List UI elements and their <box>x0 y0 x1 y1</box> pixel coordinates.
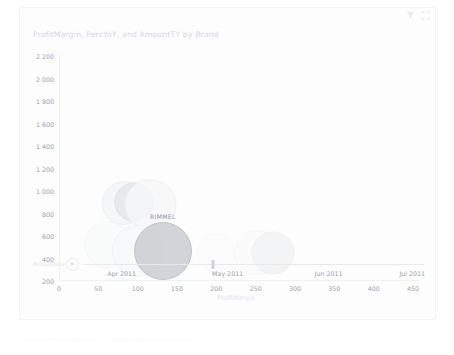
filter-icon[interactable] <box>406 11 415 20</box>
play-axis[interactable]: ActualDate Apr 2011May 2011Jun 2011Jul 2… <box>33 259 426 289</box>
play-axis-slider-track[interactable] <box>84 264 424 265</box>
card-header <box>406 11 430 20</box>
play-button[interactable] <box>66 258 79 271</box>
footer-caption: Source: sample sales model — bubble char… <box>21 336 421 342</box>
y-axis-tick: 600 <box>42 233 54 240</box>
scatter-plot[interactable]: RIMMEL 2004006008001 0001 2001 4001 6001… <box>59 56 413 281</box>
page-title: ProfitMargin, PercYoY, and AmountTY by B… <box>33 30 219 39</box>
footer-divider <box>19 330 436 331</box>
y-axis-tick: 1 600 <box>36 120 54 127</box>
play-axis-field-label: ActualDate <box>33 261 65 267</box>
play-axis-slider-handle[interactable] <box>212 260 215 269</box>
y-axis-tick: 1 200 <box>36 165 54 172</box>
play-triangle-icon <box>71 262 75 266</box>
y-axis-tick: 2 200 <box>36 53 54 60</box>
play-axis-tick[interactable]: Jun 2011 <box>315 270 343 277</box>
focus-mode-icon[interactable] <box>421 11 430 20</box>
play-axis-tick[interactable]: Apr 2011 <box>107 270 136 277</box>
y-axis-tick: 2 000 <box>36 75 54 82</box>
bubble-label: RIMMEL <box>150 212 176 219</box>
visual-card: ProfitMargin, PercYoY, and AmountTY by B… <box>19 7 436 320</box>
plot-surface[interactable]: RIMMEL <box>59 56 413 281</box>
play-axis-tick[interactable]: May 2011 <box>212 270 243 277</box>
y-axis-tick: 800 <box>42 210 54 217</box>
x-axis-title: ProfitMargin <box>217 294 254 301</box>
y-axis-tick: 1 800 <box>36 98 54 105</box>
y-axis-tick: 1 400 <box>36 143 54 150</box>
y-axis-tick: 1 000 <box>36 188 54 195</box>
play-axis-tick[interactable]: Jul 2011 <box>400 270 426 277</box>
